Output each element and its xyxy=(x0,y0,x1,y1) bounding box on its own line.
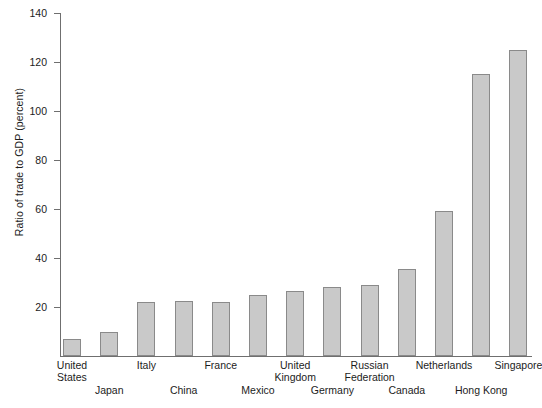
x-axis-label-line: Mexico xyxy=(241,385,274,397)
bar xyxy=(509,50,527,356)
y-tick-20: 20 xyxy=(0,307,61,308)
x-axis-label-line: States xyxy=(57,372,87,384)
y-tick-label: 120 xyxy=(19,57,47,67)
y-tick-label: 40 xyxy=(19,253,47,263)
x-axis-label: Singapore xyxy=(494,360,542,372)
bar xyxy=(249,295,267,356)
bar xyxy=(63,339,81,356)
bar xyxy=(212,302,230,356)
x-axis-label: RussianFederation xyxy=(344,360,394,383)
x-axis-label: Italy xyxy=(137,360,156,372)
x-axis-label-line: United xyxy=(57,360,87,372)
y-tick-label: 100 xyxy=(19,106,47,116)
bar xyxy=(100,332,118,357)
x-axis-label-line: Netherlands xyxy=(416,360,473,372)
y-tick-140: 140 xyxy=(0,13,61,14)
x-axis-label-line: Kingdom xyxy=(274,372,315,384)
x-axis-label: Hong Kong xyxy=(455,385,508,397)
y-tick-60: 60 xyxy=(0,209,61,210)
y-tick-80: 80 xyxy=(0,160,61,161)
x-axis-label-line: Hong Kong xyxy=(455,385,508,397)
x-axis-label-line: China xyxy=(170,385,197,397)
x-axis-label: Mexico xyxy=(241,385,274,397)
x-axis-label-line: Federation xyxy=(344,372,394,384)
y-tick-label: 140 xyxy=(19,8,47,18)
y-tick-label: 80 xyxy=(19,155,47,165)
x-axis-label-line: Germany xyxy=(311,385,354,397)
bar xyxy=(472,74,490,356)
x-axis-label: UnitedStates xyxy=(57,360,87,383)
bars-layer xyxy=(60,13,532,356)
bar xyxy=(361,285,379,356)
x-axis-label: UnitedKingdom xyxy=(274,360,315,383)
bar xyxy=(137,302,155,356)
x-axis-label-line: Russian xyxy=(344,360,394,372)
bar xyxy=(398,269,416,356)
x-axis-label-line: United xyxy=(274,360,315,372)
x-axis-label-line: Italy xyxy=(137,360,156,372)
y-tick-label: 20 xyxy=(19,302,47,312)
x-axis-label-line: Singapore xyxy=(494,360,542,372)
bar xyxy=(323,287,341,356)
bar xyxy=(175,301,193,356)
y-tick-100: 100 xyxy=(0,111,61,112)
x-axis-label: Germany xyxy=(311,385,354,397)
x-axis-label-line: Canada xyxy=(388,385,425,397)
x-axis-label: Netherlands xyxy=(416,360,473,372)
x-axis-label: China xyxy=(170,385,197,397)
y-tick-label: 60 xyxy=(19,204,47,214)
y-tick-40: 40 xyxy=(0,258,61,259)
bar xyxy=(286,291,304,356)
y-tick-120: 120 xyxy=(0,62,61,63)
y-axis-title: Ratio of trade to GDP (percent) xyxy=(12,0,26,332)
x-axis-label: France xyxy=(204,360,237,372)
x-axis-label: Canada xyxy=(388,385,425,397)
x-axis-line xyxy=(60,356,532,357)
x-axis-label-line: France xyxy=(204,360,237,372)
x-axis-labels: UnitedStatesJapanItalyChinaFranceMexicoU… xyxy=(60,358,535,408)
x-axis-label: Japan xyxy=(95,385,124,397)
bar xyxy=(435,211,453,356)
x-axis-label-line: Japan xyxy=(95,385,124,397)
